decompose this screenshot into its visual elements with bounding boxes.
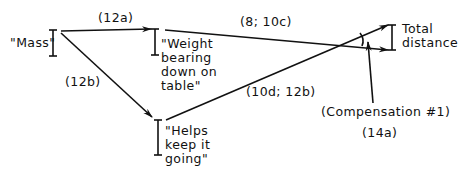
node-weight-label: "Weight bearing down on table" [161, 37, 217, 93]
node-helps-label: "Helps keep it going" [165, 124, 210, 166]
edge-label-12b: (12b) [65, 75, 101, 89]
compensation-arrow [368, 42, 373, 103]
node-mass-label: "Mass" [10, 36, 55, 50]
node-total-label: Total distance [402, 22, 458, 50]
edge-label-10d-12b: (10d; 12b) [246, 85, 316, 99]
helps-ibar-icon [154, 120, 162, 155]
compensation-label: (Compensation #1) [321, 105, 450, 119]
weight-ibar-icon [151, 29, 159, 55]
edge-label-12a: (12a) [98, 11, 133, 25]
total-ibar-icon [388, 25, 396, 50]
compensation-ref: (14a) [362, 126, 397, 140]
angle-arc-icon [360, 33, 363, 46]
edge-label-8-10c: (8; 10c) [240, 15, 292, 29]
edge-mass-weight [61, 29, 151, 31]
diagram-canvas [0, 0, 461, 179]
